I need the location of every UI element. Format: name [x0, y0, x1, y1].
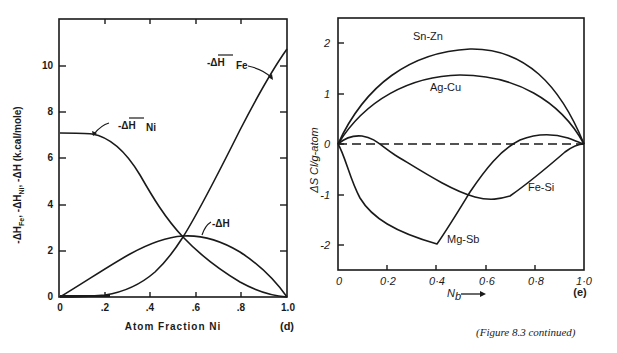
svg-text:Fe: Fe [236, 60, 248, 71]
label-ag-cu: Ag-Cu [430, 81, 461, 93]
chart-entropy-panel: 2 1 0 -1 -2 0 0·2 0·4 0·6 0·8 1·0 Sn-Zn … [308, 18, 593, 302]
panel-label-d: (d) [280, 320, 294, 332]
left-ylabel-terms: -ΔH [12, 226, 23, 244]
label-sn-zn: Sn-Zn [413, 30, 443, 42]
right-y-tick-neg1: -1 [320, 189, 330, 201]
curve-sn-zn [338, 49, 584, 144]
right-y-tick-1: 1 [324, 88, 330, 100]
figure-caption: (Figure 8.3 continued) [476, 326, 575, 338]
right-x-tick-2: 0·4 [429, 275, 445, 287]
label-mg-sb: Mg-Sb [447, 233, 479, 245]
left-y-axis-label: -ΔHFe, -ΔHNi, -ΔH (k.cal/mole) [12, 106, 25, 243]
svg-text:ΔS Cl/g-atom: ΔS Cl/g-atom [308, 127, 320, 193]
right-x-axis-label: N b [447, 287, 486, 302]
curve-dh-fe [60, 49, 287, 297]
left-x-tick-3: .6 [192, 302, 201, 313]
annotation-dh-fe: -ΔH Fe [207, 55, 273, 80]
left-y-tick-6: 6 [47, 152, 53, 163]
svg-text:b: b [455, 290, 461, 302]
left-x-tick-1: .2 [101, 302, 110, 313]
svg-text:-ΔH: -ΔH [212, 218, 230, 229]
left-x-tick-2: .4 [146, 302, 155, 313]
pointer-arrow-icon [202, 222, 211, 235]
svg-text:Ni: Ni [146, 122, 156, 133]
left-y-tick-2: 2 [47, 245, 53, 256]
right-x-tick-1: 0·2 [380, 275, 396, 287]
left-x-axis-label: Atom Fraction Ni [125, 321, 222, 332]
pointer-arrow-icon [248, 66, 272, 78]
right-x-tick-3: 0·6 [479, 275, 496, 287]
svg-text:-ΔHFe, -ΔHNi, -ΔH (k.cal/mol: -ΔHFe, -ΔHNi, -ΔH (k.cal/mole) [12, 106, 25, 243]
left-x-tick-0: 0 [57, 302, 63, 313]
annotation-dh-mix: -ΔH [202, 218, 230, 235]
figure-canvas: 0 .2 .4 .6 .8 1.0 0 2 4 6 8 10 -ΔH Fe -Δ… [0, 0, 617, 353]
left-y-ticks [59, 66, 287, 251]
right-y-tick-neg2: -2 [320, 239, 330, 251]
left-plot-frame [59, 19, 287, 297]
left-y-tick-8: 8 [47, 106, 53, 117]
right-x-tick-0: 0 [336, 275, 343, 287]
svg-text:-ΔH: -ΔH [207, 57, 225, 68]
curve-dh-ni [60, 133, 287, 297]
right-y-axis-label: ΔS Cl/g-atom [308, 127, 320, 193]
left-y-tick-4: 4 [47, 199, 53, 210]
label-fe-si: Fe-Si [528, 181, 554, 193]
left-y-tick-0: 0 [47, 291, 53, 302]
chart-enthalpy-panel: 0 .2 .4 .6 .8 1.0 0 2 4 6 8 10 -ΔH Fe -Δ… [12, 19, 295, 332]
pointer-arrow-icon [94, 123, 109, 134]
svg-text:-ΔH: -ΔH [118, 120, 136, 131]
right-y-tick-0: 0 [324, 138, 331, 150]
right-y-tick-2: 2 [323, 37, 330, 49]
left-x-tick-5: 1.0 [281, 302, 295, 313]
annotation-dh-ni: -ΔH Ni [92, 118, 156, 136]
panel-label-e: (e) [573, 286, 587, 298]
left-y-tick-10: 10 [42, 60, 54, 71]
svg-text:N: N [447, 287, 455, 299]
right-x-tick-4: 0·8 [528, 275, 545, 287]
left-x-tick-4: .8 [237, 302, 246, 313]
